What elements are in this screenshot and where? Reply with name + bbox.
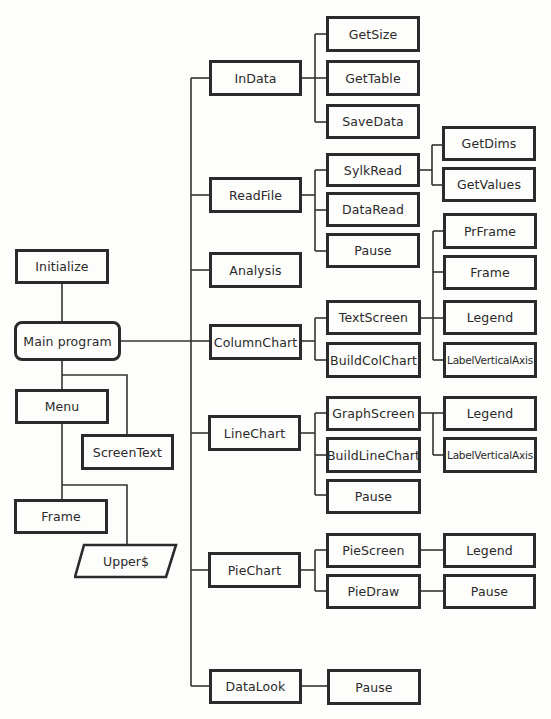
- screentext-label: ScreenText: [93, 445, 162, 460]
- pd-pause-box: Pause: [443, 574, 536, 609]
- columnchart-label: ColumnChart: [214, 335, 297, 350]
- datalook-pause-label: Pause: [355, 680, 392, 695]
- main-program-label: Main program: [23, 334, 111, 349]
- dataread-label: DataRead: [342, 202, 404, 217]
- gettable-box: GetTable: [326, 60, 420, 96]
- columnchart-box: ColumnChart: [209, 324, 302, 360]
- getvalues-label: GetValues: [457, 177, 521, 192]
- getdims-label: GetDims: [462, 136, 517, 151]
- gs-legend-box: Legend: [443, 396, 537, 431]
- initialize-box: Initialize: [15, 249, 109, 284]
- analysis-box: Analysis: [209, 252, 302, 288]
- menu-box: Menu: [15, 389, 109, 424]
- graphscreen-box: GraphScreen: [326, 396, 421, 431]
- getvalues-box: GetValues: [442, 167, 536, 202]
- linechart-pause-label: Pause: [355, 489, 392, 504]
- ts-legend-box: Legend: [443, 300, 537, 335]
- readfile-pause-label: Pause: [354, 243, 391, 258]
- buildcolchart-box: BuildColChart: [326, 342, 421, 378]
- main-program-box: Main program: [14, 321, 121, 361]
- textscreen-box: TextScreen: [326, 300, 421, 335]
- piedraw-label: PieDraw: [348, 584, 400, 599]
- piechart-label: PieChart: [228, 563, 282, 578]
- readfile-box: ReadFile: [209, 177, 302, 213]
- datalook-label: DataLook: [226, 679, 286, 694]
- readfile-label: ReadFile: [229, 188, 282, 203]
- dataread-box: DataRead: [326, 192, 420, 227]
- ps-legend-box: Legend: [443, 533, 536, 568]
- screentext-box: ScreenText: [81, 434, 174, 470]
- piescreen-box: PieScreen: [326, 533, 421, 568]
- initialize-label: Initialize: [35, 259, 88, 274]
- linechart-label: LineChart: [224, 426, 285, 441]
- savedata-box: SaveData: [326, 104, 420, 139]
- gs-labelverticalaxis-box: LabelVerticalAxis: [443, 437, 537, 473]
- prframe-label: PrFrame: [464, 224, 516, 239]
- ts-labelverticalaxis-label: LabelVerticalAxis: [447, 354, 533, 366]
- tsframe-box: Frame: [443, 255, 537, 290]
- graphscreen-label: GraphScreen: [332, 406, 414, 421]
- piechart-box: PieChart: [208, 552, 301, 588]
- linechart-pause-box: Pause: [326, 479, 421, 514]
- getsize-box: GetSize: [326, 16, 420, 52]
- datalook-box: DataLook: [209, 669, 302, 704]
- indata-label: InData: [234, 71, 276, 86]
- prframe-box: PrFrame: [443, 213, 537, 249]
- gs-legend-label: Legend: [467, 406, 514, 421]
- frame-box: Frame: [14, 499, 108, 534]
- getsize-label: GetSize: [349, 27, 398, 42]
- getdims-box: GetDims: [442, 126, 536, 161]
- sylkread-box: SylkRead: [326, 153, 420, 187]
- piedraw-box: PieDraw: [326, 574, 421, 609]
- datalook-pause-box: Pause: [327, 669, 421, 705]
- upper-label: Upper$: [103, 554, 149, 569]
- savedata-label: SaveData: [342, 114, 403, 129]
- upper-io-box: Upper$: [74, 543, 178, 579]
- frame-label: Frame: [41, 509, 80, 524]
- menu-label: Menu: [45, 399, 80, 414]
- gs-labelverticalaxis-label: LabelVerticalAxis: [447, 449, 533, 461]
- analysis-label: Analysis: [229, 263, 281, 278]
- gettable-label: GetTable: [345, 71, 400, 86]
- pd-pause-label: Pause: [471, 584, 508, 599]
- ts-labelverticalaxis-box: LabelVerticalAxis: [443, 342, 537, 378]
- buildlinechart-label: BuildLineChart: [327, 448, 420, 463]
- tsframe-label: Frame: [470, 265, 509, 280]
- sylkread-label: SylkRead: [344, 163, 402, 178]
- buildcolchart-label: BuildColChart: [330, 353, 417, 368]
- readfile-pause-box: Pause: [326, 233, 420, 268]
- buildlinechart-box: BuildLineChart: [326, 437, 421, 473]
- linechart-box: LineChart: [208, 415, 301, 451]
- indata-box: InData: [209, 60, 302, 96]
- piescreen-label: PieScreen: [342, 543, 404, 558]
- ts-legend-label: Legend: [467, 310, 514, 325]
- textscreen-label: TextScreen: [339, 310, 408, 325]
- ps-legend-label: Legend: [466, 543, 513, 558]
